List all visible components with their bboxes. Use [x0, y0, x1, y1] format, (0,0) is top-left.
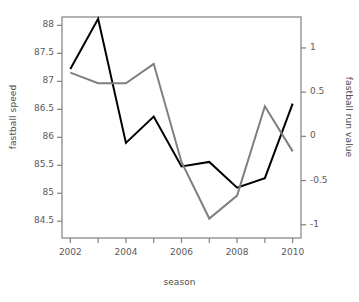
x-axis-title: season: [0, 277, 359, 287]
y2-tick-label: -1: [310, 219, 350, 229]
y-tick-label: 84.5: [4, 215, 54, 225]
y-tick-label: 88: [4, 19, 54, 29]
x-axis-ticks: [70, 238, 292, 243]
x-tick-label: 2008: [212, 247, 262, 257]
x-tick-label: 2006: [157, 247, 207, 257]
y2-tick-label: -0.5: [310, 175, 350, 185]
x-tick-label: 2002: [45, 247, 95, 257]
y-tick-label: 87.5: [4, 47, 54, 57]
x-tick-label: 2004: [101, 247, 151, 257]
series-line-fastball-run-value: [70, 64, 292, 219]
axis-box: [62, 17, 301, 238]
y2-tick-label: 1: [310, 42, 350, 52]
y-axis-left-title: fastball speed: [8, 72, 18, 162]
y-axis-right-title: fastball run value: [344, 67, 354, 167]
data-series-group: [70, 19, 292, 219]
x-tick-label: 2010: [268, 247, 318, 257]
right-axis-ticks: [301, 48, 306, 225]
y-tick-label: 85: [4, 187, 54, 197]
chart-container: 84.58585.58686.58787.588 -1-0.500.51 200…: [0, 0, 359, 302]
left-axis-ticks: [57, 25, 62, 221]
